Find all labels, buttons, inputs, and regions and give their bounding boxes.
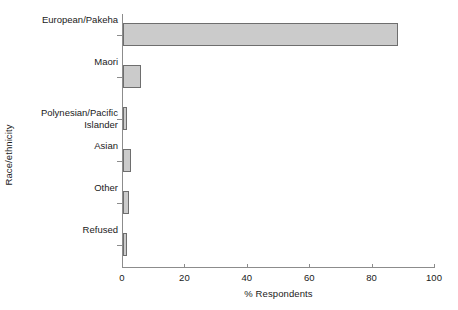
y-axis-tick (117, 203, 122, 204)
bar (123, 191, 129, 214)
x-axis-line (122, 267, 435, 268)
y-axis-tick (117, 161, 122, 162)
category-label: Asian (10, 140, 118, 152)
category-label: Refused (10, 224, 118, 236)
category-label: Polynesian/Pacific Islander (10, 107, 118, 130)
bar (123, 233, 127, 256)
bar (123, 65, 141, 88)
bar (123, 107, 127, 130)
bar-row: Polynesian/Pacific Islander (0, 98, 458, 140)
bar-row: Asian (0, 140, 458, 182)
x-axis-tick-label: 40 (227, 272, 267, 283)
x-axis-tick (122, 264, 123, 268)
category-label: Maori (10, 56, 118, 68)
x-axis-title: % Respondents (122, 288, 435, 299)
x-axis-tick (309, 264, 310, 268)
category-label: European/Pakeha (10, 14, 118, 26)
x-axis-tick-label: 0 (102, 272, 142, 283)
bar-row: Refused (0, 224, 458, 266)
bar-chart: Race/ethnicity European/Pakeha Maori Pol… (0, 0, 458, 310)
category-label: Other (10, 182, 118, 194)
y-axis-tick (117, 119, 122, 120)
x-axis-tick-label: 20 (164, 272, 204, 283)
x-axis-tick (372, 264, 373, 268)
x-axis-tick-label: 100 (414, 272, 454, 283)
bar (123, 149, 131, 172)
bar (123, 23, 398, 46)
bar-row: Maori (0, 56, 458, 98)
x-axis-tick (434, 264, 435, 268)
x-axis-tick-label: 80 (352, 272, 392, 283)
bar-row: European/Pakeha (0, 14, 458, 56)
x-axis-tick (247, 264, 248, 268)
y-axis-tick (117, 245, 122, 246)
x-axis-tick (184, 264, 185, 268)
y-axis-tick (117, 35, 122, 36)
x-axis-tick-label: 60 (289, 272, 329, 283)
bar-row: Other (0, 182, 458, 224)
y-axis-tick (117, 77, 122, 78)
